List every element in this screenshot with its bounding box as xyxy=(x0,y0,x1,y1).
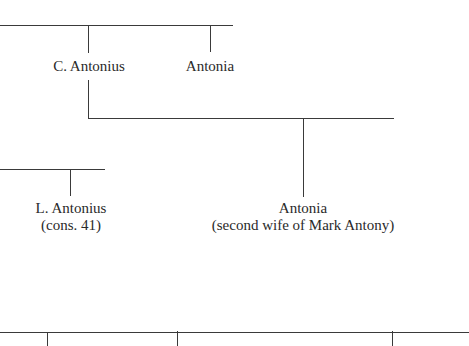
node-l-antonius: L. Antonius (cons. 41) xyxy=(36,200,107,234)
connector-bottom-child-2 xyxy=(177,331,178,346)
connector-bottom-child-1 xyxy=(47,332,48,346)
connector-to-c-antonius xyxy=(88,25,89,53)
connector-bottom-child-3 xyxy=(392,331,393,346)
connector-c-antonius-children-bar xyxy=(88,118,394,119)
node-c-antonius: C. Antonius xyxy=(53,58,125,75)
connector-c-antonius-descent xyxy=(88,80,89,119)
connector-top-sibling-bar xyxy=(0,25,233,26)
connector-l-antonius-bar xyxy=(0,169,105,170)
node-name: C. Antonius xyxy=(53,58,125,74)
node-note: (second wife of Mark Antony) xyxy=(212,217,394,234)
node-name: Antonia xyxy=(212,200,394,217)
connector-to-antonia-2 xyxy=(303,118,304,197)
connector-bottom-bar xyxy=(0,332,469,333)
node-name: L. Antonius xyxy=(36,200,107,217)
node-antonia-2: Antonia (second wife of Mark Antony) xyxy=(212,200,394,234)
connector-to-l-antonius xyxy=(70,169,71,196)
connector-to-antonia-1 xyxy=(210,25,211,52)
node-name: Antonia xyxy=(186,58,234,74)
node-note: (cons. 41) xyxy=(36,217,107,234)
node-antonia-1: Antonia xyxy=(186,58,234,75)
